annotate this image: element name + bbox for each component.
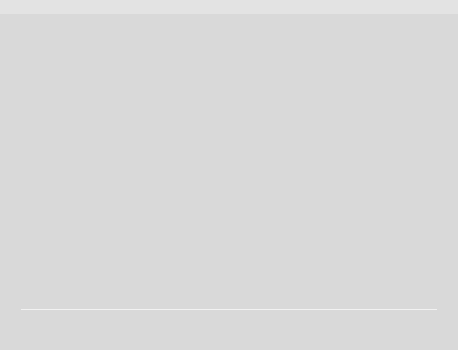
x-axis-ticks [66, 264, 437, 280]
chart-title-strip [0, 0, 458, 14]
y-axis-ticks [35, 18, 63, 262]
legend-separator [21, 309, 437, 310]
plot-area [66, 18, 437, 262]
chart-figure [0, 0, 458, 350]
chart-lines [66, 18, 437, 262]
plot-wrapper [21, 18, 437, 280]
